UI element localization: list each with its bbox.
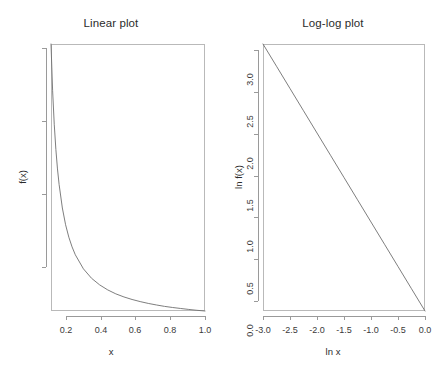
x-tick-loglog--3.0 — [263, 316, 264, 320]
curve-linear — [51, 44, 205, 311]
x-tick-loglog--1.5 — [344, 316, 345, 320]
y-tick-linear-20 — [42, 48, 46, 49]
y-tick-linear-5 — [42, 267, 46, 268]
x-tick-loglog--2.0 — [317, 316, 318, 320]
x-ticklabel-loglog--0.5: -0.5 — [390, 326, 406, 335]
y-axis-title-linear: f(x) — [18, 157, 28, 197]
x-ticklabel-linear-0.8: 0.8 — [164, 326, 177, 335]
x-tick-loglog--0.5 — [398, 316, 399, 320]
y-ticklabel-loglog-1.5: 1.5 — [246, 191, 255, 221]
curve-loglog — [263, 44, 425, 311]
x-tick-loglog--2.5 — [290, 316, 291, 320]
y-tick-loglog-0.5 — [254, 259, 258, 260]
x-ticklabel-loglog-0.0: 0.0 — [419, 326, 432, 335]
y-tick-linear-15 — [42, 121, 46, 122]
x-tick-linear-1.0 — [205, 316, 206, 320]
x-axis-title-linear: x — [0, 347, 222, 357]
x-ticklabel-linear-0.4: 0.4 — [95, 326, 108, 335]
x-ticklabel-loglog--2.0: -2.0 — [309, 326, 325, 335]
x-tick-loglog--1.0 — [371, 316, 372, 320]
y-tick-loglog-2.5 — [254, 92, 258, 93]
x-tick-linear-0.8 — [170, 316, 171, 320]
y-axis-line-linear — [46, 48, 47, 267]
y-ticklabel-loglog-3.0: 3.0 — [246, 65, 255, 95]
x-ticklabel-loglog--3.0: -3.0 — [255, 326, 271, 335]
x-ticklabel-linear-0.2: 0.2 — [60, 326, 73, 335]
panel-title-loglog: Log-log plot — [222, 16, 444, 30]
y-tick-loglog-3.0 — [254, 50, 258, 51]
x-ticklabel-linear-1.0: 1.0 — [199, 326, 212, 335]
y-ticklabel-loglog-2.0: 2.0 — [246, 149, 255, 179]
panel-title-linear: Linear plot — [0, 16, 222, 30]
y-ticklabel-loglog-2.5: 2.5 — [246, 107, 255, 137]
x-tick-linear-0.6 — [135, 316, 136, 320]
x-tick-loglog-0.0 — [425, 316, 426, 320]
y-ticklabel-loglog-0.0: 0.0 — [246, 316, 255, 346]
y-tick-loglog-1.5 — [254, 176, 258, 177]
x-tick-linear-0.4 — [101, 316, 102, 320]
x-ticklabel-loglog--2.5: -2.5 — [282, 326, 298, 335]
curve-path-linear — [51, 44, 205, 311]
curve-path-loglog — [263, 44, 425, 311]
y-ticklabel-loglog-0.5: 0.5 — [246, 274, 255, 304]
x-ticklabel-loglog--1.5: -1.5 — [336, 326, 352, 335]
panel-loglog-plot: Log-log plot 3.0 2.5 2.0 1.5 1.0 0.5 0.0… — [222, 0, 444, 374]
x-tick-linear-0.2 — [66, 316, 67, 320]
x-ticklabel-loglog--1.0: -1.0 — [363, 326, 379, 335]
y-ticklabel-loglog-1.0: 1.0 — [246, 232, 255, 262]
panel-linear-plot: Linear plot 20 15 10 5 f(x) 0.2 0.4 0.6 … — [0, 0, 222, 374]
y-axis-title-loglog: ln f(x) — [234, 152, 244, 202]
x-ticklabel-linear-0.6: 0.6 — [129, 326, 142, 335]
y-tick-linear-10 — [42, 194, 46, 195]
figure-canvas: Linear plot 20 15 10 5 f(x) 0.2 0.4 0.6 … — [0, 0, 444, 374]
y-axis-line-loglog — [258, 50, 259, 301]
x-axis-title-loglog: ln x — [222, 347, 444, 357]
y-tick-loglog-2.0 — [254, 134, 258, 135]
y-tick-loglog-1.0 — [254, 217, 258, 218]
y-tick-loglog-0.0 — [254, 301, 258, 302]
